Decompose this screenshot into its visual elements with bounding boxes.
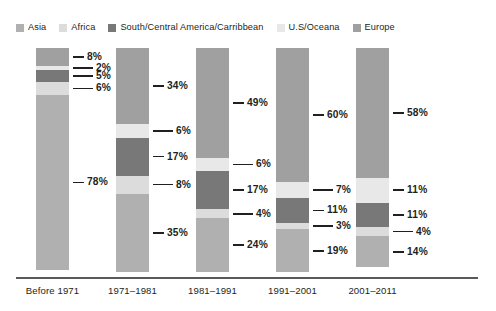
x-axis-tick-label: 1991–2001 (253, 286, 333, 296)
bar-segment[interactable] (196, 209, 229, 218)
bar-group: 58%11%11%4%14% (356, 44, 496, 276)
data-label-callout: 6% (153, 125, 191, 136)
stacked-bar[interactable] (356, 48, 389, 272)
leader-line (73, 88, 93, 90)
leader-line (313, 250, 324, 252)
data-label-value: 4% (256, 209, 271, 219)
bar-segment[interactable] (276, 198, 309, 223)
bar-segment[interactable] (356, 203, 389, 228)
data-label-callout: 8% (153, 179, 191, 190)
leader-line (393, 189, 404, 191)
data-label-value: 58% (407, 108, 428, 118)
legend-label-south-central-america: South/Central America/Carribbean (120, 23, 263, 32)
data-label-callout: 34% (153, 81, 188, 92)
bar-segment[interactable] (356, 236, 389, 267)
data-label-value: 24% (247, 240, 268, 250)
data-label-callout: 60% (313, 110, 348, 121)
data-label-callout: 8% (73, 51, 102, 62)
data-label-callout: 7% (313, 185, 351, 196)
x-axis-tick-label: Before 1971 (13, 286, 93, 296)
data-label-value: 8% (87, 52, 102, 62)
leader-line (73, 75, 93, 77)
data-label-callout: 11% (313, 205, 347, 216)
leader-line (233, 102, 244, 104)
bar-segment[interactable] (356, 178, 389, 203)
stacked-bar[interactable] (116, 48, 149, 272)
leader-line (393, 112, 404, 114)
data-label-callout: 11% (393, 185, 427, 196)
data-label-value: 5% (96, 71, 111, 81)
data-label-callout: 4% (233, 208, 271, 219)
data-label-callout: 49% (233, 97, 268, 108)
legend-swatch-europe (353, 24, 361, 32)
data-label-value: 34% (167, 81, 188, 91)
leader-line (313, 210, 324, 212)
data-label-value: 8% (176, 180, 191, 190)
data-label-value: 17% (247, 185, 268, 195)
data-label-callout: 58% (393, 107, 428, 118)
legend-swatch-south-central-america (108, 24, 116, 32)
data-label-value: 6% (96, 83, 111, 93)
bar-segment[interactable] (276, 229, 309, 272)
legend-item-africa: Africa (59, 23, 95, 32)
data-label-callout: 78% (73, 177, 108, 188)
bar-segment[interactable] (116, 138, 149, 176)
leader-line (233, 164, 253, 166)
bar-segment[interactable] (196, 158, 229, 171)
bar-segment[interactable] (36, 95, 69, 270)
leader-line (233, 213, 253, 215)
legend-item-south-central-america: South/Central America/Carribbean (108, 23, 263, 32)
data-label-value: 3% (336, 221, 351, 231)
bar-segment[interactable] (116, 124, 149, 137)
leader-line (153, 232, 164, 234)
leader-line (313, 114, 324, 116)
data-label-callout: 35% (153, 227, 188, 238)
bar-segment[interactable] (116, 48, 149, 124)
legend-label-europe: Europe (365, 23, 395, 32)
stacked-bar[interactable] (276, 48, 309, 272)
x-axis-tick-label: 1971–1981 (93, 286, 173, 296)
bar-segment[interactable] (356, 48, 389, 178)
bar-segment[interactable] (276, 223, 309, 230)
leader-line (73, 182, 84, 184)
data-label-value: 60% (327, 110, 348, 120)
bar-segment[interactable] (356, 227, 389, 236)
leader-line (73, 56, 84, 58)
bar-segment[interactable] (276, 48, 309, 182)
leader-line (153, 184, 173, 186)
bar-segment[interactable] (116, 176, 149, 194)
data-label-callout: 17% (233, 185, 268, 196)
data-label-callout: 14% (393, 246, 428, 257)
data-label-callout: 5% (73, 71, 111, 82)
data-label-value: 19% (327, 246, 348, 256)
chart-legend: Asia Africa South/Central America/Carrib… (0, 20, 496, 36)
leader-line (233, 189, 244, 191)
data-label-value: 7% (336, 185, 351, 195)
stacked-bar[interactable] (196, 48, 229, 272)
bar-segment[interactable] (196, 171, 229, 209)
bar-segment[interactable] (196, 48, 229, 158)
bar-segment[interactable] (276, 182, 309, 198)
data-label-callout: 4% (393, 226, 431, 237)
legend-swatch-africa (59, 24, 67, 32)
data-label-callout: 24% (233, 240, 268, 251)
x-axis-line (16, 277, 478, 279)
leader-line (313, 225, 333, 227)
bar-segment[interactable] (116, 194, 149, 272)
data-label-callout: 3% (313, 221, 351, 232)
data-label-value: 4% (416, 227, 431, 237)
data-label-value: 14% (407, 247, 428, 257)
data-label-value: 35% (167, 228, 188, 238)
leader-line (313, 189, 333, 191)
data-label-value: 78% (87, 177, 108, 187)
leader-line (73, 67, 93, 69)
bar-segment[interactable] (196, 218, 229, 272)
bar-segment[interactable] (36, 70, 69, 81)
data-label-callout: 19% (313, 245, 348, 256)
leader-line (153, 156, 164, 158)
stacked-bar[interactable] (36, 48, 69, 272)
legend-swatch-us-oceana (277, 24, 285, 32)
x-axis-labels: Before 19711971–19811981–19911991–200120… (0, 286, 496, 302)
bar-segment[interactable] (36, 48, 69, 66)
bar-segment[interactable] (36, 82, 69, 95)
